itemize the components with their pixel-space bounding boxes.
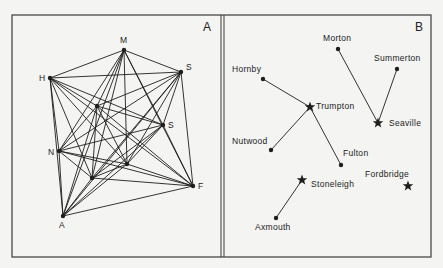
diagram-canvas: A MHSSNFA B MortonSummertonHornbyTrumpto… xyxy=(0,0,443,268)
dot-icon xyxy=(339,163,343,167)
place-label-trumpton: Trumpton xyxy=(316,101,354,111)
panel-a-nodes: MHSSNFA xyxy=(39,35,204,230)
node-i2 xyxy=(125,162,129,166)
place-label-hornby: Hornby xyxy=(232,64,262,74)
link-summerton-seaville xyxy=(378,69,397,123)
edge-s1-n xyxy=(59,72,181,151)
edge-h-i1 xyxy=(50,78,97,106)
edge-i2-i3 xyxy=(92,164,127,178)
dot-icon xyxy=(336,47,340,51)
edge-a-i1 xyxy=(63,106,97,216)
node-label-s2: S xyxy=(168,120,174,130)
link-morton-seaville xyxy=(338,49,378,123)
dot-icon xyxy=(274,216,278,220)
link-fulton-trumpton xyxy=(310,107,341,165)
node-h xyxy=(48,76,52,80)
link-axmouth-stoneleigh xyxy=(276,180,302,218)
place-label-seaville: Seaville xyxy=(389,118,421,128)
node-label-n: N xyxy=(48,147,54,157)
panel-a-letter: A xyxy=(203,20,211,34)
node-n xyxy=(57,149,61,153)
star-icon xyxy=(305,102,315,112)
node-label-s1: S xyxy=(186,62,192,72)
panel-a: A MHSSNFA xyxy=(39,20,211,230)
edge-m-s1 xyxy=(124,50,181,72)
node-label-m: M xyxy=(120,35,127,45)
dot-icon xyxy=(269,148,273,152)
place-label-stoneleigh: Stoneleigh xyxy=(311,179,354,189)
node-m xyxy=(122,48,126,52)
place-label-fulton: Fulton xyxy=(343,148,368,158)
node-a xyxy=(61,214,65,218)
node-i1 xyxy=(95,104,99,108)
place-label-morton: Morton xyxy=(323,33,351,43)
node-label-a: A xyxy=(59,220,65,230)
node-s1 xyxy=(179,70,183,74)
place-label-fordbridge: Fordbridge xyxy=(365,169,409,179)
panel-a-edges xyxy=(50,50,193,216)
node-f xyxy=(191,184,195,188)
edge-s2-i1 xyxy=(97,106,163,125)
dot-icon xyxy=(395,67,399,71)
dot-icon xyxy=(261,77,265,81)
edge-s2-i3 xyxy=(92,125,163,178)
place-label-summerton: Summerton xyxy=(374,53,421,63)
node-s2 xyxy=(161,123,165,127)
place-label-axmouth: Axmouth xyxy=(255,222,291,232)
edge-s2-n xyxy=(59,125,163,151)
node-label-f: F xyxy=(198,181,204,191)
link-hornby-trumpton xyxy=(263,79,310,107)
panel-b-letter: B xyxy=(415,20,423,34)
star-icon xyxy=(297,175,307,185)
place-label-nutwood: Nutwood xyxy=(232,136,268,146)
star-icon xyxy=(373,118,383,128)
edge-m-n xyxy=(59,50,124,151)
panel-b: B MortonSummertonHornbyTrumptonSeavilleN… xyxy=(232,20,423,232)
node-label-h: H xyxy=(39,73,45,83)
node-i3 xyxy=(90,176,94,180)
star-icon xyxy=(403,181,413,191)
edge-s1-f xyxy=(181,72,193,186)
link-nutwood-trumpton xyxy=(271,107,310,150)
panel-b-places: MortonSummertonHornbyTrumptonSeavilleNut… xyxy=(232,33,421,232)
panel-b-links xyxy=(263,49,397,218)
edge-s2-f xyxy=(163,125,193,186)
